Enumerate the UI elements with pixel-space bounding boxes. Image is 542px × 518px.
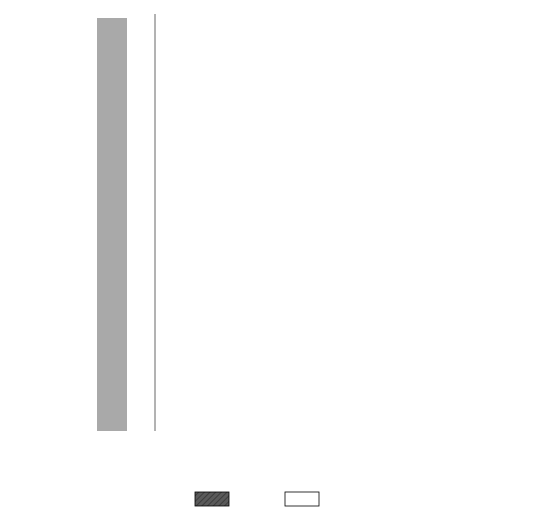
figure-root [0, 0, 542, 518]
legend [195, 492, 319, 506]
multi-panel-proxy-chart [0, 0, 542, 518]
legend-swatch-loess [285, 492, 319, 506]
legend-swatch-paleosol [195, 492, 229, 506]
zone-highlight-band [97, 18, 127, 431]
